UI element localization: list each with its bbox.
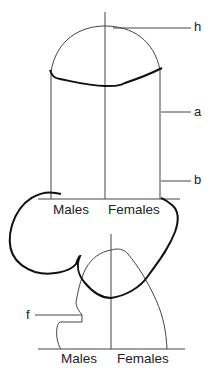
bottom-male-curve xyxy=(57,250,111,349)
bottom-x-label-males: Males xyxy=(61,352,97,366)
top-x-label-males: Males xyxy=(53,203,89,217)
top-panel xyxy=(38,12,191,199)
callout-f-label: f xyxy=(26,308,30,321)
bottom-panel xyxy=(35,234,185,349)
bottom-x-label-females: Females xyxy=(117,352,169,366)
callout-h-label: h xyxy=(194,20,201,33)
bottom-female-curve xyxy=(111,249,167,349)
top-x-label-females: Females xyxy=(108,203,160,217)
top-hand-drawn-line xyxy=(50,68,162,86)
callout-a-label: a xyxy=(194,105,201,118)
diagram-canvas xyxy=(0,0,215,368)
callout-b-label: b xyxy=(194,173,201,186)
